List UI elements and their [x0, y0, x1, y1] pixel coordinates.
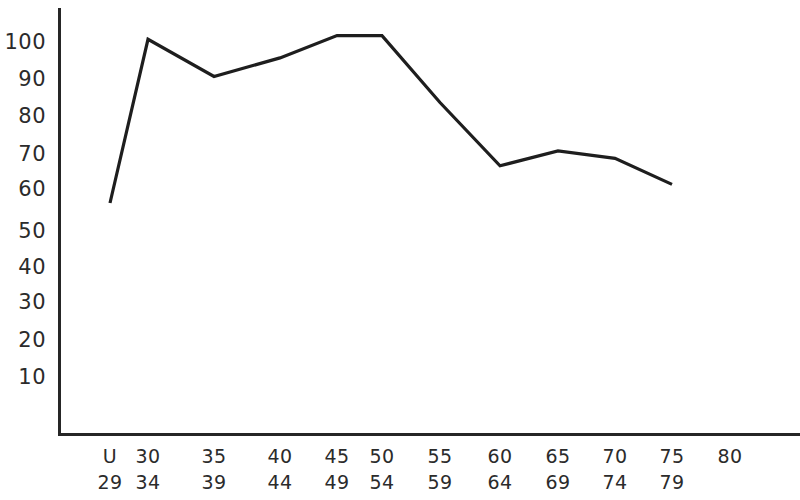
- x-axis-tick-label-upper: 55: [414, 443, 466, 469]
- data-series-line: [0, 0, 800, 500]
- x-axis-tick-group: 3539: [188, 443, 240, 495]
- x-axis-tick-label-upper: 40: [254, 443, 306, 469]
- x-axis-tick-label-lower: 74: [589, 469, 641, 495]
- x-axis-tick-label-lower: 64: [474, 469, 526, 495]
- line-chart: 102030405060708090100 U29303435394044454…: [0, 0, 800, 500]
- x-axis-tick-label-upper: 35: [188, 443, 240, 469]
- x-axis-tick-label-upper: 65: [532, 443, 584, 469]
- x-axis-tick-group: 3034: [122, 443, 174, 495]
- x-axis-tick-group: 4044: [254, 443, 306, 495]
- x-axis-tick-label-lower: 54: [356, 469, 408, 495]
- x-axis-tick-label-lower: 80: [704, 443, 756, 469]
- x-axis-tick-label-lower: 59: [414, 469, 466, 495]
- x-axis-tick-label-lower: 44: [254, 469, 306, 495]
- x-axis-tick-labels: U293034353940444549505455596064656970747…: [0, 443, 800, 500]
- plot-area: [0, 0, 800, 500]
- x-axis-tick-label-lower: 34: [122, 469, 174, 495]
- x-axis-tick-label-lower: 79: [646, 469, 698, 495]
- x-axis-tick-group: 80: [704, 443, 756, 469]
- x-axis-tick-group: 6064: [474, 443, 526, 495]
- x-axis-tick-group: 5054: [356, 443, 408, 495]
- x-axis-tick-label-upper: 75: [646, 443, 698, 469]
- x-axis-tick-label-upper: 70: [589, 443, 641, 469]
- x-axis-tick-label-lower: 69: [532, 469, 584, 495]
- x-axis-tick-label-upper: 30: [122, 443, 174, 469]
- x-axis-tick-group: 7074: [589, 443, 641, 495]
- x-axis-tick-group: 6569: [532, 443, 584, 495]
- x-axis-tick-label-upper: 60: [474, 443, 526, 469]
- data-line-path: [110, 36, 672, 203]
- x-axis-tick-group: 7579: [646, 443, 698, 495]
- x-axis-tick-group: 5559: [414, 443, 466, 495]
- x-axis-tick-label-upper: 50: [356, 443, 408, 469]
- x-axis-tick-label-lower: 39: [188, 469, 240, 495]
